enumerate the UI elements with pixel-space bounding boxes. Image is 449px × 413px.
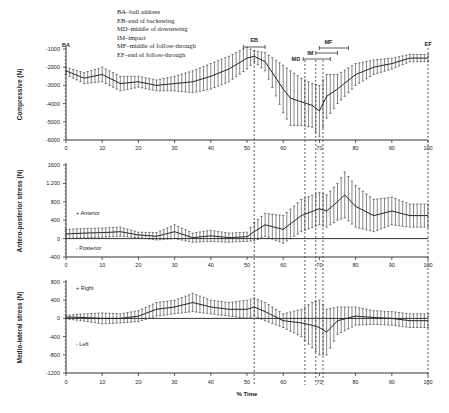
y-tick-label: -6000	[46, 137, 60, 143]
phase-marker-label: MD	[292, 56, 301, 62]
annotation-negative: - Posterior	[76, 245, 102, 251]
x-tick-label: 90	[389, 379, 395, 385]
annotation-positive: + Anterior	[76, 210, 100, 216]
x-tick-label: 70	[316, 379, 322, 385]
x-tick-label: 10	[99, 379, 105, 385]
phase-marker-label: EF	[424, 41, 432, 47]
y-tick-label: 1600	[48, 162, 60, 168]
chart-panel-3: 8004000-400-800-120001020304050607080901…	[16, 279, 433, 385]
chart-canvas: -1000-2000-3000-4000-5000-60000102030405…	[0, 0, 449, 413]
x-tick-label: 80	[353, 379, 359, 385]
x-tick-label: 30	[172, 145, 178, 151]
x-tick-label: 60	[280, 145, 286, 151]
y-tick-label: 400	[51, 217, 60, 223]
phase-marker-label: MF	[324, 39, 333, 45]
x-tick-label: 50	[244, 379, 250, 385]
x-tick-label: 50	[244, 145, 250, 151]
x-tick-label: 70	[316, 262, 322, 268]
x-tick-label: 40	[208, 262, 214, 268]
y-tick-label: -1000	[46, 46, 60, 52]
x-tick-label: 40	[208, 145, 214, 151]
x-tick-label: 0	[64, 379, 67, 385]
x-tick-label: 20	[135, 262, 141, 268]
x-tick-label: 10	[99, 145, 105, 151]
y-tick-label: -1200	[46, 370, 60, 376]
x-tick-label: 10	[99, 262, 105, 268]
annotation-positive: + Right	[76, 285, 94, 291]
x-tick-label: 0	[64, 262, 67, 268]
chart-panel-2: 16001,2008004000-40001020304050607080901…	[16, 162, 433, 268]
x-tick-label: 90	[389, 145, 395, 151]
x-tick-label: 60	[280, 262, 286, 268]
y-tick-label: -3000	[46, 82, 60, 88]
x-tick-label: 30	[172, 379, 178, 385]
x-tick-label: 40	[208, 379, 214, 385]
x-tick-label: 20	[135, 379, 141, 385]
x-tick-label: 90	[389, 262, 395, 268]
x-tick-label: 20	[135, 145, 141, 151]
phase-marker-label: BA	[62, 42, 70, 48]
annotation-negative: - Left	[76, 341, 89, 347]
x-tick-label: 80	[353, 145, 359, 151]
y-tick-label: -800	[49, 352, 60, 358]
y-tick-label: -400	[49, 334, 60, 340]
y-axis-label: Antero-posterior stress (N)	[16, 169, 24, 252]
y-tick-label: 0	[57, 315, 60, 321]
phase-marker-label: IM	[307, 50, 314, 56]
y-tick-label: -400	[49, 254, 60, 260]
y-tick-label: -5000	[46, 119, 60, 125]
y-tick-label: 400	[51, 297, 60, 303]
y-tick-label: -2000	[46, 64, 60, 70]
x-tick-label: 0	[64, 145, 67, 151]
y-tick-label: 0	[57, 236, 60, 242]
y-tick-label: -4000	[46, 101, 60, 107]
x-tick-label: 30	[172, 262, 178, 268]
x-tick-label: 50	[244, 262, 250, 268]
y-axis-label: Medio-lateral stress (N)	[16, 292, 24, 364]
y-tick-label: 1,200	[46, 180, 60, 186]
x-tick-label: 70	[316, 145, 322, 151]
y-tick-label: 800	[51, 199, 60, 205]
y-axis-label: Compressive (N)	[16, 69, 24, 121]
x-axis-label: % Time	[237, 391, 259, 397]
x-tick-label: 80	[353, 262, 359, 268]
phase-marker-label: EB	[250, 37, 258, 43]
chart-panel-1: -1000-2000-3000-4000-5000-60000102030405…	[16, 46, 433, 151]
x-tick-label: 60	[280, 379, 286, 385]
y-tick-label: 800	[51, 279, 60, 285]
